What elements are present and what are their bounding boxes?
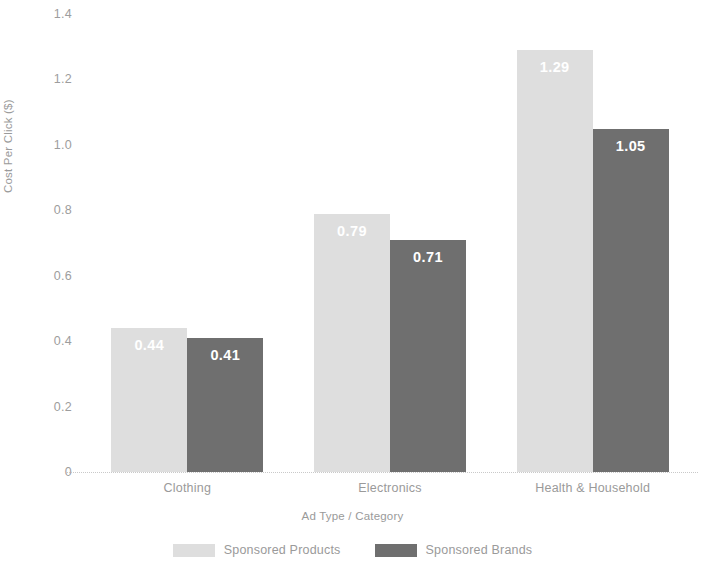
- legend-swatch-icon: [375, 544, 417, 557]
- legend-item[interactable]: Sponsored Brands: [375, 543, 533, 557]
- bar[interactable]: 0.41: [187, 338, 263, 472]
- x-axis-tick-label: Clothing: [164, 481, 211, 495]
- y-axis-tick-label: 0.6: [28, 269, 72, 283]
- y-axis-tick-label: 0.2: [28, 400, 72, 414]
- bar-value-label: 0.71: [390, 249, 466, 265]
- y-axis-tick-label: 1.2: [28, 72, 72, 86]
- legend-item[interactable]: Sponsored Products: [173, 543, 341, 557]
- bar-group: 0.440.41: [111, 14, 263, 472]
- bar-value-label: 0.79: [314, 223, 390, 239]
- bar[interactable]: 1.05: [593, 129, 669, 473]
- x-axis-tick-label: Electronics: [358, 481, 421, 495]
- legend-label: Sponsored Products: [224, 543, 341, 557]
- y-axis-title: Cost Per Click ($): [2, 0, 14, 193]
- y-axis-tick-label: 0.8: [28, 203, 72, 217]
- bar-group: 0.790.71: [314, 14, 466, 472]
- bar-chart: Cost Per Click ($) 00.20.40.60.81.01.21.…: [0, 0, 705, 574]
- y-axis-tick-label: 1.0: [28, 138, 72, 152]
- bar[interactable]: 0.79: [314, 214, 390, 472]
- bar-value-label: 0.44: [111, 337, 187, 353]
- bar-group: 1.291.05: [517, 14, 669, 472]
- y-axis-tick-label: 0.4: [28, 334, 72, 348]
- x-axis-title: Ad Type / Category: [0, 510, 705, 522]
- y-axis-tick-label: 1.4: [28, 7, 72, 21]
- bar-value-label: 1.29: [517, 59, 593, 75]
- legend-swatch-icon: [173, 544, 215, 557]
- bar[interactable]: 0.44: [111, 328, 187, 472]
- bar-value-label: 0.41: [187, 347, 263, 363]
- x-axis-tick-label: Health & Household: [535, 481, 650, 495]
- x-axis-line: [66, 472, 698, 474]
- plot-area: 0.440.410.790.711.291.05: [86, 14, 694, 472]
- bar-value-label: 1.05: [593, 138, 669, 154]
- bar[interactable]: 1.29: [517, 50, 593, 472]
- chart-legend: Sponsored ProductsSponsored Brands: [0, 543, 705, 557]
- bar[interactable]: 0.71: [390, 240, 466, 472]
- legend-label: Sponsored Brands: [426, 543, 533, 557]
